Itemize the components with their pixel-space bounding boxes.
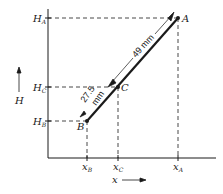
- y-axis-arrow-icon: [17, 67, 21, 92]
- diagram-canvas: 49 mm 27.5 mm A C B HA HC HB xB xC xA H …: [0, 0, 223, 194]
- tick-label-hc: HC: [32, 82, 47, 94]
- point-a: [176, 16, 180, 20]
- x-axis-title: x: [112, 174, 118, 185]
- point-b: [85, 119, 89, 123]
- label-a: A: [181, 13, 189, 24]
- point-c: [116, 85, 120, 89]
- arrowhead-a: [168, 12, 174, 21]
- tick-label-xc: xC: [113, 161, 124, 173]
- y-axis-title: H: [14, 95, 24, 106]
- arrowhead-b: [80, 111, 86, 117]
- x-axis-arrow-icon: [122, 178, 146, 182]
- tick-label-xb: xB: [82, 161, 93, 173]
- arrowhead-c: [108, 79, 116, 87]
- tick-label-xa: xA: [173, 161, 184, 173]
- tick-label-ha: HA: [32, 13, 47, 25]
- label-b: B: [76, 121, 84, 132]
- label-c: C: [121, 82, 129, 93]
- dimension-bc: [80, 111, 86, 117]
- segment-ba: [87, 18, 178, 121]
- tick-label-hb: HB: [32, 116, 47, 128]
- axes: [48, 9, 216, 158]
